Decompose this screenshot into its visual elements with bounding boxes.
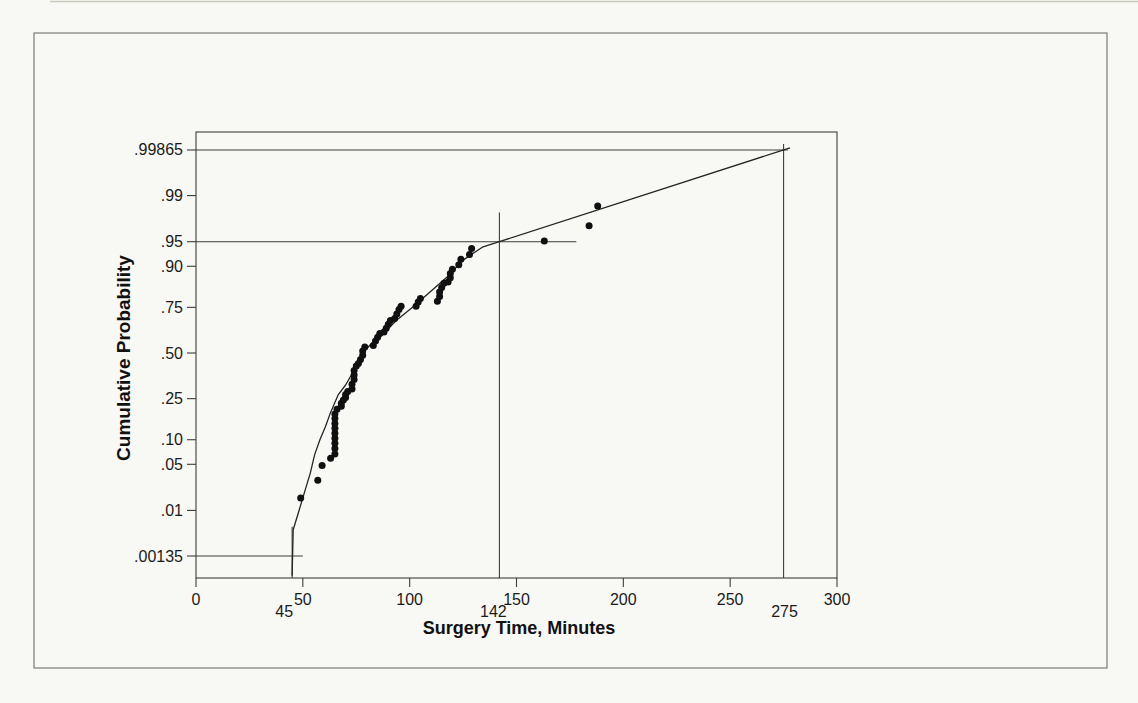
figure-border: [34, 33, 1107, 668]
data-point: [398, 303, 405, 310]
y-tick-label: .10: [161, 431, 183, 448]
y-tick-label: .99: [161, 187, 183, 204]
fit-curve: [292, 148, 790, 576]
data-point: [466, 251, 473, 258]
y-tick-label: .75: [161, 299, 183, 316]
y-axis-title: Cumulative Probability: [113, 255, 134, 461]
plot-frame: [196, 132, 837, 578]
y-tick-label: .95: [161, 233, 183, 250]
data-point: [541, 238, 548, 245]
y-tick-label: .05: [161, 456, 183, 473]
probability-plot: .00135.01.05.10.25.50.75.90.95.99.998650…: [0, 0, 1138, 703]
x-tick-label: 50: [294, 591, 312, 608]
y-tick-label: .25: [161, 390, 183, 407]
data-point: [319, 462, 326, 469]
x-tick-label: 100: [396, 591, 423, 608]
y-tick-label: .99865: [134, 141, 183, 158]
x-tick-label: 200: [610, 591, 637, 608]
y-tick-label: .90: [161, 258, 183, 275]
data-point: [417, 295, 424, 302]
x-tick-label: 150: [503, 591, 530, 608]
x-tick-label: 0: [192, 591, 201, 608]
x-tick-label: 250: [717, 591, 744, 608]
y-tick-label: .01: [161, 502, 183, 519]
x-axis-title: Surgery Time, Minutes: [423, 618, 616, 638]
data-point: [468, 245, 475, 252]
data-point: [586, 222, 593, 229]
data-point: [361, 344, 368, 351]
y-tick-label: .50: [161, 345, 183, 362]
data-point: [594, 203, 601, 210]
data-point: [449, 266, 456, 273]
data-point: [297, 495, 304, 502]
y-tick-label: .00135: [134, 548, 183, 565]
x-tick-label: 300: [824, 591, 851, 608]
percentile-x-label: 45: [275, 603, 293, 620]
percentile-x-label: 275: [771, 603, 798, 620]
chart-layer: .00135.01.05.10.25.50.75.90.95.99.998650…: [34, 2, 1138, 669]
data-point: [457, 256, 464, 263]
data-point: [314, 477, 321, 484]
scanned-page: { "page": { "background": "#f8f8f5", "in…: [0, 0, 1138, 703]
